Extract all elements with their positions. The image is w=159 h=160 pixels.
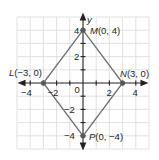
- point-l: [41, 80, 46, 85]
- label-n: N(3, 0): [120, 68, 149, 79]
- x-tick-label: 4: [133, 87, 138, 98]
- y-tick-label: 2: [74, 51, 79, 62]
- y-axis: [81, 14, 86, 149]
- label-p: P(0, −4): [89, 131, 123, 142]
- coordinate-plane: y 0 −4 −2 2 4 4 2 −2 −4 M(0, 4) N(3, 0) …: [0, 0, 159, 160]
- label-l: L(−3, 0): [9, 67, 42, 78]
- point-m: [80, 28, 85, 33]
- origin-label: 0: [75, 84, 80, 95]
- x-axis-right-arrow-icon: [141, 81, 147, 86]
- y-axis-down-arrow-icon: [81, 143, 86, 149]
- x-tick-label: −4: [21, 87, 32, 98]
- label-m: M(0, 4): [90, 25, 120, 36]
- point-p: [80, 133, 85, 138]
- y-axis-up-arrow-icon: [81, 14, 86, 20]
- y-tick-label: −4: [64, 130, 75, 141]
- x-tick-label: −2: [48, 87, 59, 98]
- y-axis-label: y: [86, 14, 93, 25]
- y-tick-label: −2: [64, 104, 75, 115]
- x-axis-left-arrow-icon: [19, 81, 25, 86]
- x-tick-label: 2: [107, 87, 112, 98]
- y-tick-label: 4: [74, 25, 79, 36]
- point-n: [120, 80, 125, 85]
